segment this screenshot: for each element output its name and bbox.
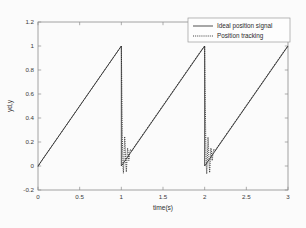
chart-plot: 00.511.522.53 -0.200.20.40.60.811.2 time… — [0, 0, 306, 228]
y-axis-title: yd,y — [6, 99, 14, 112]
series-line-1 — [38, 46, 288, 166]
x-tick-label: 2.5 — [242, 193, 251, 200]
y-axis-tick-labels: -0.200.20.40.60.811.2 — [23, 18, 34, 193]
legend-label-2: Position tracking — [217, 32, 264, 40]
x-tick-label: 1 — [120, 193, 124, 200]
x-axis-tick-labels: 00.511.522.53 — [36, 193, 290, 200]
figure-canvas: 00.511.522.53 -0.200.20.40.60.811.2 time… — [0, 0, 306, 228]
x-tick-label: 0 — [36, 193, 40, 200]
y-tick-label: 0.8 — [25, 66, 34, 73]
y-tick-label: 0.4 — [25, 114, 34, 121]
series-line-2 — [38, 46, 288, 174]
series-layer — [38, 46, 288, 174]
x-tick-label: 3 — [286, 193, 290, 200]
y-tick-label: 0.2 — [25, 138, 34, 145]
y-tick-label: 1 — [31, 42, 35, 49]
chart-legend: Ideal position signalPosition tracking — [188, 18, 290, 42]
x-tick-label: 0.5 — [75, 193, 84, 200]
y-tick-label: 1.2 — [25, 18, 34, 25]
y-tick-label: 0.6 — [25, 90, 34, 97]
y-tick-label: 0 — [31, 162, 35, 169]
x-tick-label: 2 — [203, 193, 207, 200]
x-axis-title: time(s) — [153, 204, 173, 212]
y-tick-label: -0.2 — [23, 186, 34, 193]
legend-label-1: Ideal position signal — [217, 22, 272, 30]
x-tick-label: 1.5 — [159, 193, 168, 200]
